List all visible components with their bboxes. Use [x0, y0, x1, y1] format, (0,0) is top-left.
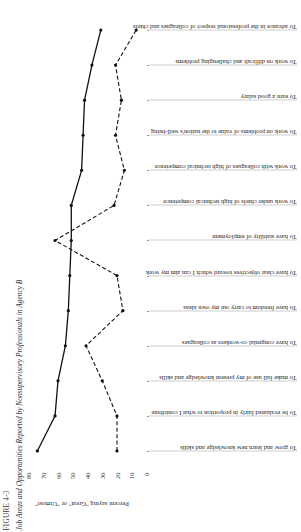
rotated-page: FIGURE 4-3 Job Areas and Opportunities R… — [0, 0, 301, 532]
category-12: To advance in the professional respect o… — [146, 24, 296, 35]
category-9: To work on problems of value to the nati… — [146, 129, 296, 140]
plot-area — [28, 12, 146, 468]
category-label: To have clear objectives toward which I … — [145, 269, 296, 276]
category-4: To have freedom to carry out my own idea… — [146, 305, 296, 316]
y-axis-ticks: 01020304050607080 — [28, 472, 146, 496]
category-7: To work under chiefs of high technical c… — [146, 199, 296, 210]
series-line-opportunity — [55, 30, 136, 451]
category-label: To earn a good salary — [240, 93, 296, 100]
category-3: To have congenial co-workers as colleagu… — [146, 340, 296, 351]
category-2: To make full use of my present knowledge… — [146, 375, 296, 386]
y-tick-40: 40 — [84, 472, 91, 478]
category-label: To be evaluated fairly in proportion to … — [151, 409, 296, 416]
category-label: To have stability of employment — [212, 234, 296, 241]
category-label: To advance in the professional respect o… — [132, 23, 296, 30]
data-point-1-3 — [84, 344, 87, 347]
category-label: To work on problems of value to the nati… — [150, 128, 296, 135]
category-label: To work with colleagues of high technica… — [154, 163, 296, 170]
y-tick-70: 70 — [39, 472, 46, 478]
y-tick-20: 20 — [113, 472, 120, 478]
y-tick-50: 50 — [69, 472, 76, 478]
category-8: To work with colleagues of high technica… — [146, 164, 296, 175]
figure-frame: FIGURE 4-3 Job Areas and Opportunities R… — [0, 0, 301, 532]
category-5: To have clear objectives toward which I … — [146, 270, 296, 281]
y-axis-label-text: Percent saying "Great" or "Utmost" — [22, 501, 142, 508]
y-tick-10: 10 — [128, 472, 135, 478]
category-10: To earn a good salary — [146, 94, 296, 105]
data-point-0-12 — [99, 28, 102, 31]
category-label: To work on difficult and challenging pro… — [175, 58, 296, 65]
y-tick-0: 0 — [143, 472, 150, 475]
category-label: To have congenial co-workers as colleagu… — [181, 339, 296, 346]
figure-number: FIGURE 4-3 — [2, 490, 10, 530]
chart-lines — [28, 12, 146, 468]
y-tick-30: 30 — [98, 472, 105, 478]
category-label: To grow and learn new knowledge and skil… — [180, 444, 296, 451]
category-label: To make full use of my present knowledge… — [159, 374, 296, 381]
data-point-1-4 — [121, 309, 124, 312]
y-axis-label: Percent saying "Great" or "Utmost" — [28, 498, 146, 510]
data-point-1-1 — [115, 414, 118, 417]
figure-title: Job Areas and Opportunities Reported by … — [14, 2, 23, 530]
series-line-importance — [37, 30, 100, 451]
y-tick-60: 60 — [54, 472, 61, 478]
category-labels: To grow and learn new knowledge and skil… — [146, 12, 296, 468]
data-point-1-8 — [122, 168, 125, 171]
y-tick-80: 80 — [25, 472, 32, 478]
category-label: To have freedom to carry out my own idea… — [183, 304, 296, 311]
category-11: To work on difficult and challenging pro… — [146, 59, 296, 70]
data-point-1-2 — [100, 379, 103, 382]
category-1: To be evaluated fairly in proportion to … — [146, 410, 296, 421]
category-0: To grow and learn new knowledge and skil… — [146, 445, 296, 456]
category-6: To have stability of employment — [146, 235, 296, 246]
data-point-1-6 — [53, 238, 56, 241]
category-label: To work under chiefs of high technical c… — [163, 198, 296, 205]
